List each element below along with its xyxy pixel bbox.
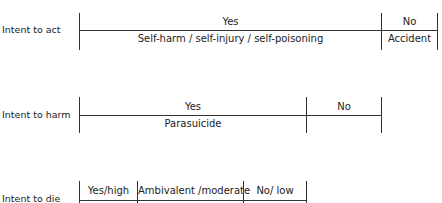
axis-line <box>79 115 382 116</box>
axis-line <box>79 200 307 201</box>
segment-bottom-label: Accident <box>382 33 437 45</box>
segment-top-label: No <box>307 101 381 113</box>
divider-line <box>437 13 438 50</box>
row-label: Intent to harm <box>2 109 71 121</box>
segment-top-label: No <box>382 16 437 28</box>
segment-top-label: Ambivalent /moderate <box>138 185 243 197</box>
segment-bottom-label: Self-harm / self-injury / self-poisoning <box>80 33 381 45</box>
segment-top-label: No/ low <box>244 185 306 197</box>
segment-top-label: Yes/high <box>80 185 137 197</box>
segment-bottom-label: Parasuicide <box>80 118 306 130</box>
axis-line <box>79 30 438 31</box>
row-label: Intent to die <box>2 193 60 203</box>
segment-top-label: Yes <box>80 101 306 113</box>
segment-top-label: Yes <box>80 16 381 28</box>
row-label: Intent to act <box>2 24 60 36</box>
